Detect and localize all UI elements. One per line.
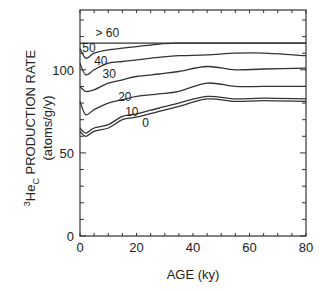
y-axis-title-line1: 3HeC PRODUCTION RATE — [22, 49, 41, 206]
axis-tick-labels: 020406080050100 — [52, 63, 313, 255]
curve-label: 10 — [125, 105, 139, 119]
x-tick-label: 80 — [299, 240, 313, 255]
plot-frame — [80, 10, 306, 236]
x-tick-label: 20 — [129, 240, 143, 255]
plot-area-border — [80, 10, 306, 236]
curve-50 — [80, 43, 306, 58]
y-axis-title-rest: PRODUCTION RATE — [23, 49, 38, 178]
curve-label: 40 — [94, 54, 108, 68]
curve-label: > 60 — [96, 26, 120, 40]
y-tick-label: 100 — [52, 63, 74, 78]
curve-label: 30 — [103, 67, 117, 81]
curve-label: 50 — [82, 41, 96, 55]
x-tick-label: 0 — [76, 240, 83, 255]
x-axis-title: AGE (ky) — [167, 267, 220, 282]
axis-ticks — [80, 10, 306, 236]
curve-label: 0 — [142, 116, 149, 130]
curve-0 — [80, 99, 306, 137]
y-axis-title-he: He — [23, 185, 38, 202]
x-tick-label: 60 — [242, 240, 256, 255]
y-tick-label: 0 — [67, 229, 74, 244]
y-axis-title: 3HeC PRODUCTION RATE (atoms/g/y) — [22, 49, 55, 206]
production-rate-chart: 020406080050100 > 6050403020100 AGE (ky)… — [0, 0, 320, 292]
curves — [80, 43, 306, 136]
curve-labels: > 6050403020100 — [82, 26, 149, 130]
curve-label: 20 — [118, 90, 132, 104]
x-tick-label: 40 — [186, 240, 200, 255]
y-axis-title-line2: (atoms/g/y) — [40, 95, 55, 160]
y-tick-label: 50 — [60, 146, 74, 161]
